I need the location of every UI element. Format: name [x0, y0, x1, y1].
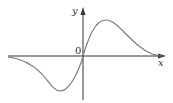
graph-canvas — [0, 0, 173, 103]
x-axis-label: x — [158, 58, 164, 68]
origin-label: 0 — [75, 46, 81, 56]
y-axis-arrow-icon — [81, 7, 86, 15]
function-graph: y 0 x — [0, 0, 173, 103]
y-axis-label: y — [72, 6, 78, 16]
